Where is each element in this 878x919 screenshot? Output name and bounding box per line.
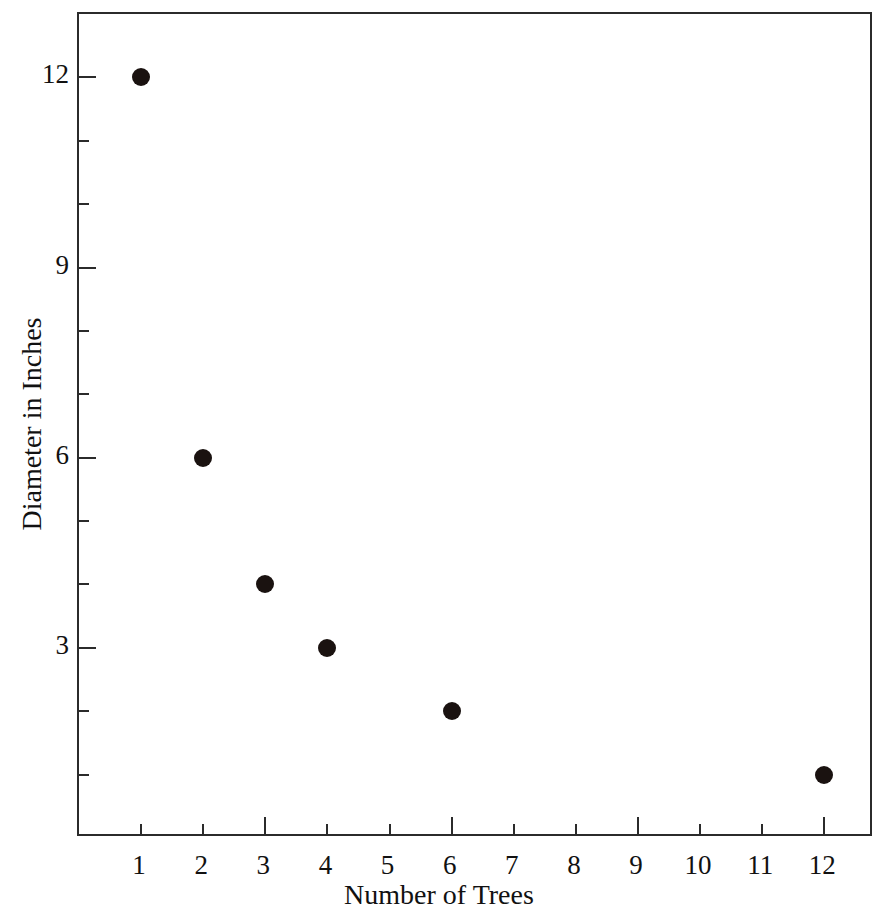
y-axis-minor-tick [79,774,89,776]
y-axis-minor-tick [79,330,89,332]
y-axis-title: Diameter in Inches [12,12,52,836]
x-axis-minor-tick [389,824,391,834]
x-axis-tick-label: 7 [482,852,542,879]
y-axis-tick-label: 9 [9,252,69,279]
y-axis-major-tick [79,267,96,269]
y-axis-minor-tick [79,393,89,395]
y-axis-major-tick [79,457,96,459]
x-axis-tick-label: 10 [668,852,728,879]
x-axis-minor-tick [140,824,142,834]
y-axis-minor-tick [79,203,89,205]
x-axis-tick-label: 1 [109,852,169,879]
data-point [443,702,461,720]
x-axis-tick-label: 6 [420,852,480,879]
y-axis-tick-label: 3 [9,632,69,659]
data-point [256,575,274,593]
x-axis-minor-tick [761,824,763,834]
y-axis-minor-tick [79,583,89,585]
x-axis-tick-label: 9 [606,852,666,879]
y-axis-major-tick [79,647,96,649]
x-axis-major-tick [823,817,825,834]
x-axis-minor-tick [513,824,515,834]
x-axis-tick-label: 3 [233,852,293,879]
plot-area [79,14,870,834]
plot-frame [77,12,872,836]
x-axis-tick-label: 8 [544,852,604,879]
y-axis-minor-tick [79,520,89,522]
y-axis-major-tick [79,76,96,78]
data-point [194,449,212,467]
x-axis-minor-tick [699,824,701,834]
data-point [815,766,833,784]
x-axis-minor-tick [326,824,328,834]
x-axis-tick-label: 4 [295,852,355,879]
y-axis-minor-tick [79,140,89,142]
scatter-plot-figure: Diameter in Inches Number of Trees 36912… [0,0,878,919]
y-axis-tick-label: 12 [9,61,69,88]
x-axis-minor-tick [575,824,577,834]
x-axis-major-tick [637,817,639,834]
x-axis-minor-tick [202,824,204,834]
x-axis-major-tick [264,817,266,834]
x-axis-tick-label: 5 [358,852,418,879]
x-axis-tick-label: 2 [171,852,231,879]
y-axis-minor-tick [79,710,89,712]
x-axis-tick-label: 11 [730,852,790,879]
data-point [132,68,150,86]
x-axis-tick-label: 12 [792,852,852,879]
data-point [318,639,336,657]
x-axis-title: Number of Trees [0,880,878,910]
x-axis-major-tick [451,817,453,834]
y-axis-tick-label: 6 [9,442,69,469]
